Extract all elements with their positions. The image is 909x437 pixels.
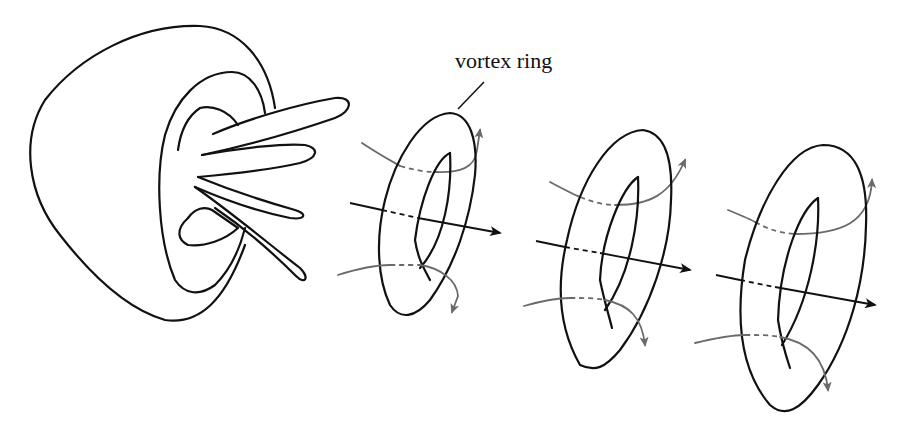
vortex-ring-1 xyxy=(338,113,500,315)
vortex-ring-3 xyxy=(695,145,875,411)
jellyfish-bell xyxy=(30,26,349,321)
label-leader-line xyxy=(458,82,484,109)
vortex-ring-2 xyxy=(524,130,690,368)
label-vortex-ring: vortex ring xyxy=(455,48,552,73)
vortex-ring-diagram: vortex ring xyxy=(0,0,909,437)
vortex-ring-label: vortex ring xyxy=(455,48,552,109)
